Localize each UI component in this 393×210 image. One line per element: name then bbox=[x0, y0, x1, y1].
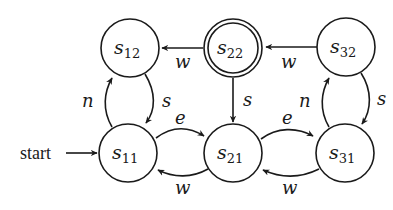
state-s22: s22 bbox=[204, 19, 262, 77]
edge-label-w: w bbox=[175, 51, 191, 72]
edge-label-w: w bbox=[282, 177, 298, 198]
state-diagram: start w w s n s n s e w e bbox=[0, 0, 393, 210]
edge-label-w: w bbox=[175, 177, 191, 198]
state-s11: s11 bbox=[99, 124, 157, 182]
state-s32: s32 bbox=[317, 18, 375, 76]
edge-label-s: s bbox=[162, 90, 171, 111]
edge-s21-s31 bbox=[261, 130, 313, 139]
edge-s31-s21 bbox=[263, 169, 319, 176]
edge-s11-s12 bbox=[105, 78, 112, 127]
edge-label-n: n bbox=[82, 90, 94, 111]
state-s31: s31 bbox=[316, 124, 374, 182]
state-s12: s12 bbox=[101, 19, 159, 77]
edge-label-s: s bbox=[243, 89, 252, 110]
edge-label-n: n bbox=[299, 90, 311, 111]
edge-s12-s11 bbox=[145, 74, 153, 123]
edge-label-w: w bbox=[281, 51, 297, 72]
edge-label-e: e bbox=[175, 107, 186, 128]
edge-s31-s32 bbox=[322, 78, 329, 127]
edge-label-s: s bbox=[377, 88, 386, 109]
edge-label-e: e bbox=[282, 107, 293, 128]
start-indicator: start bbox=[20, 143, 97, 163]
start-label: start bbox=[20, 143, 51, 163]
edge-s32-s31 bbox=[361, 73, 369, 124]
edge-s11-s21 bbox=[156, 129, 204, 138]
state-s21: s21 bbox=[204, 124, 262, 182]
edge-s21-s11 bbox=[158, 169, 208, 176]
